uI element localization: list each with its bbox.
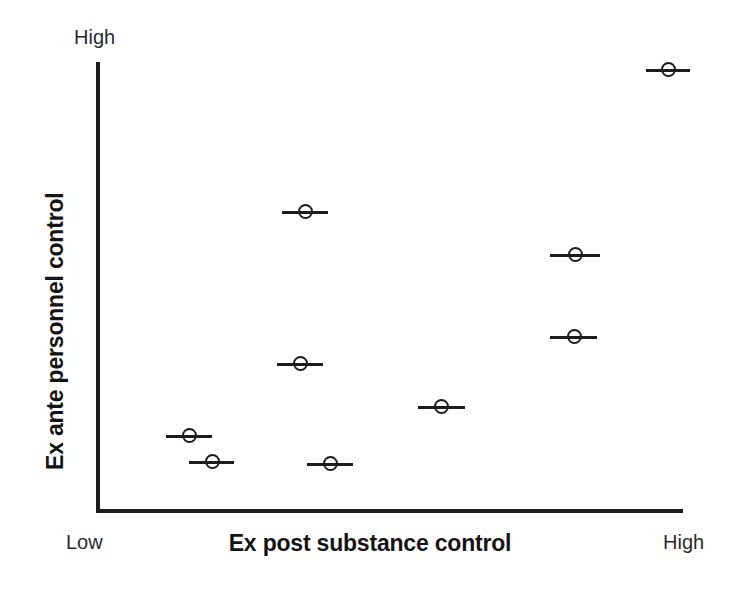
data-point-circle-icon [568,247,583,262]
x-axis-label: Ex post substance control [150,530,590,557]
x-axis-low-caption: Low [66,531,103,554]
data-point-circle-icon [434,399,449,414]
data-point-circle-icon [293,356,308,371]
data-point-circle-icon [298,204,313,219]
data-point-circle-icon [182,428,197,443]
data-point-circle-icon [567,329,582,344]
x-axis-line [96,509,683,513]
plot-area [99,62,683,511]
y-axis-high-caption: High [74,26,115,49]
x-axis-high-caption: High [663,531,704,554]
data-point-circle-icon [205,454,220,469]
y-axis-label: Ex ante personnel control [38,70,72,470]
data-point-circle-icon [661,62,676,77]
y-axis-line [96,62,100,513]
data-point-circle-icon [323,456,338,471]
figure-canvas: Ex ante personnel control High Low High … [0,0,750,594]
